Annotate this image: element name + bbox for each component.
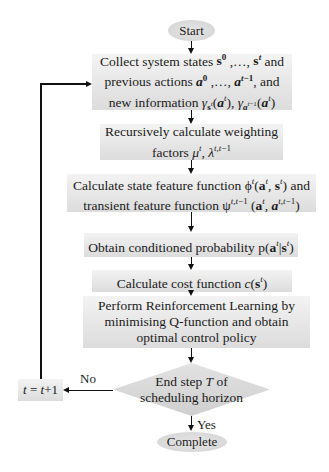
start-label: Start [179,23,204,39]
connector-feature-probability [191,212,192,226]
step-feature-line1: Calculate state feature function ϕt(at, … [73,173,310,194]
loop-back-horizontal [40,83,86,85]
connector-rl-decision [191,348,192,357]
connector-weighting-feature [191,160,192,168]
step-feature-line2: transient feature function ψt,t−1 (at, a… [83,193,299,214]
loop-back-vertical [40,83,42,379]
complete-label: Complete [167,434,218,450]
step-conditioned-probability: Obtain conditioned probability p(at|st) [84,233,298,257]
step-reinforcement-learning: Perform Reinforcement Learning by minimi… [83,296,310,348]
step-weighting-factors: Recursively calculate weighting factors … [100,124,283,160]
connector-decision-no [69,390,113,391]
step-rl-line1: Perform Reinforcement Learning by [98,298,295,314]
connector-probability-cost [191,257,192,264]
step-feature-functions: Calculate state feature function ϕt(at, … [67,174,316,212]
step-collect-states: Collect system states s0 ,…, st and prev… [92,54,292,110]
arrow-head [86,81,92,87]
yes-label: Yes [197,417,216,433]
step-rl-line2: minimising Q-function and obtain [104,314,288,330]
end-terminal: Complete [157,432,227,452]
increment-step-box: t = t+1 [18,379,63,401]
step-weighting-line1: Recursively calculate weighting [105,124,278,140]
decision-line1: End step T of [113,374,270,390]
no-label: No [80,371,96,387]
step-weighting-line2: factors μt, λt,t−1 [152,140,231,161]
arrow-head [188,226,194,232]
arrow-head [188,425,194,431]
start-terminal: Start [168,20,215,41]
step-cost-function: Calculate cost function c(st) [92,270,292,292]
increment-step-label: t = t+1 [23,382,58,398]
step-collect-line2: previous actions a0 ,…, at−1, and [105,69,280,90]
connector-collect-weighting [191,110,192,118]
step-cost-line1: Calculate cost function c(st) [117,271,268,292]
arrow-head [63,387,69,393]
decision-label: End step T of scheduling horizon [113,374,270,406]
step-rl-line3: optimal control policy [137,330,257,346]
step-probability-line1: Obtain conditioned probability p(at|st) [88,235,293,256]
decision-line2: scheduling horizon [113,390,270,406]
step-collect-line1: Collect system states s0 ,…, st and [100,49,284,70]
